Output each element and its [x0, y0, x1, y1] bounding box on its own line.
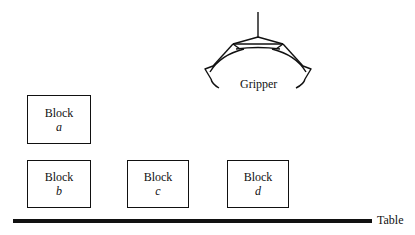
table-label: Table [377, 213, 403, 228]
block-a-letter: a [56, 120, 62, 134]
block-d: Block d [227, 160, 289, 208]
block-b: Block b [27, 160, 91, 208]
gripper-label: Gripper [240, 77, 277, 92]
block-d-word: Block [244, 170, 273, 184]
block-c-letter: c [155, 184, 160, 198]
block-b-word: Block [45, 170, 74, 184]
table-surface [13, 219, 372, 223]
block-c: Block c [127, 160, 189, 208]
block-a-word: Block [45, 106, 74, 120]
block-a: Block a [27, 95, 91, 144]
block-c-word: Block [144, 170, 173, 184]
block-d-letter: d [255, 184, 261, 198]
block-b-letter: b [56, 184, 62, 198]
